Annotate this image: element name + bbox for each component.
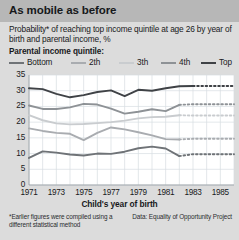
legend-item-bottom[interactable]: Bottom	[9, 57, 52, 68]
y-tick-label: 35	[3, 70, 25, 79]
x-axis-label: Child's year of birth	[0, 199, 239, 209]
legend-label: 2th	[89, 58, 100, 67]
legend-swatch-icon	[201, 62, 216, 64]
chart-title: As mobile as before	[9, 4, 116, 16]
legend-label: Top	[219, 58, 232, 67]
chart-subtitle: Probability* of reaching top income quin…	[9, 25, 234, 44]
x-axis-ticks: 19711973197519771979198119831985	[0, 188, 239, 199]
y-tick-label: 30	[3, 86, 25, 95]
x-tick-label: 1977	[99, 188, 123, 197]
legend-swatch-icon	[119, 62, 134, 64]
legend-label: Bottom	[27, 58, 52, 67]
y-tick-label: 25	[3, 101, 25, 110]
legend-label: 3th	[137, 58, 148, 67]
plot-area: 05101520253035	[0, 70, 239, 190]
x-tick-label: 1983	[181, 188, 205, 197]
x-tick-label: 1981	[154, 188, 178, 197]
legend-swatch-icon	[71, 62, 86, 64]
y-tick-label: 10	[3, 149, 25, 158]
x-tick-label: 1979	[126, 188, 150, 197]
legend-title: Parental income quintile:	[9, 47, 104, 56]
y-tick-label: 20	[3, 117, 25, 126]
legend-label: 4th	[179, 58, 190, 67]
legend-swatch-icon	[9, 62, 24, 64]
y-tick-label: 5	[3, 164, 25, 173]
legend-item-top[interactable]: Top	[201, 57, 232, 68]
chart-figure: As mobile as before Probability* of reac…	[0, 0, 239, 240]
chart-legend: Bottom2th3th4thTop	[9, 57, 237, 68]
x-tick-label: 1971	[17, 188, 41, 197]
y-tick-label: 15	[3, 133, 25, 142]
x-tick-label: 1985	[208, 188, 232, 197]
legend-item-3th[interactable]: 3th	[119, 57, 148, 68]
x-tick-label: 1975	[72, 188, 96, 197]
legend-item-4th[interactable]: 4th	[161, 57, 190, 68]
x-tick-label: 1973	[44, 188, 68, 197]
chart-canvas	[0, 70, 239, 190]
legend-swatch-icon	[161, 62, 176, 64]
chart-source: Data: Equality of Opportunity Project	[127, 213, 232, 221]
legend-item-2th[interactable]: 2th	[71, 57, 100, 68]
chart-footnote: *Earlier figures were compiled using a d…	[9, 213, 129, 228]
